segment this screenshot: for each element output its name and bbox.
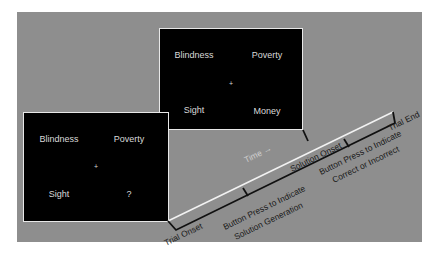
timeline-overlay: Time → Trial Onset Button Press to Indic… <box>0 0 439 255</box>
solution-onset-tick <box>303 130 308 141</box>
trial-onset-label: Trial Onset <box>162 220 204 247</box>
time-label: Time → <box>242 143 273 165</box>
button-press-1-tick <box>243 188 248 196</box>
